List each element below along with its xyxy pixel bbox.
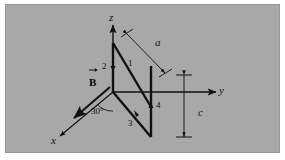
angle-label-30deg: 30° — [91, 107, 104, 116]
edge-label-2: 2 — [102, 62, 107, 71]
vector-accent-arrow-icon — [89, 67, 98, 72]
current-direction-marker-edge2 — [110, 66, 115, 71]
magnetic-field-symbol: B — [89, 76, 96, 88]
dimension-label-c: c — [198, 107, 203, 118]
magnetic-field-vector-label: B — [89, 72, 96, 90]
z-axis-label: z — [109, 12, 113, 23]
figure-drawing — [5, 4, 280, 153]
dimension-c — [176, 75, 192, 137]
figure-panel: z y x B 30° a c 1 2 3 4 — [5, 4, 280, 153]
edge-label-1: 1 — [128, 59, 133, 68]
edge-label-3: 3 — [128, 119, 133, 128]
x-axis — [60, 92, 113, 136]
y-axis-label: y — [219, 85, 224, 96]
x-axis-label: x — [51, 135, 56, 146]
edge-label-4: 4 — [156, 101, 161, 110]
figure-screenshot: z y x B 30° a c 1 2 3 4 — [0, 0, 285, 160]
dimension-label-a: a — [155, 37, 161, 48]
